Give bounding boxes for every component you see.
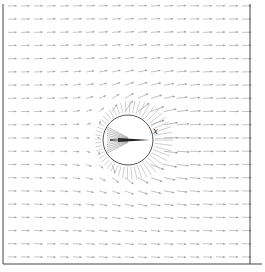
velocity-arrows: [8, 5, 252, 259]
plot-frame: [3, 4, 262, 264]
vector-field-figure: x: [0, 0, 265, 272]
flow-diagram: x: [0, 0, 265, 272]
axis-label-x: x: [153, 126, 158, 136]
sphere-wake: [107, 127, 150, 153]
